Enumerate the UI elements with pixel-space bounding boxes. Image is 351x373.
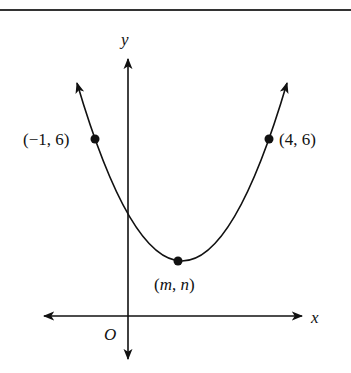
vertex-label-m: m <box>160 275 172 294</box>
parabola-curve <box>77 83 287 261</box>
vertex-label-sep: , <box>172 275 181 294</box>
point-right-label: (4, 6) <box>279 130 316 149</box>
vertex-label: (m, n) <box>154 275 195 294</box>
parabola-diagram: y x O (−1, 6) (4, 6) (m, n) <box>0 0 351 373</box>
origin-label: O <box>104 325 116 344</box>
x-axis-label: x <box>310 308 319 327</box>
point-left <box>91 135 100 144</box>
vertex-label-close: ) <box>189 275 195 294</box>
point-left-label: (−1, 6) <box>23 130 69 149</box>
y-axis-label: y <box>119 30 129 49</box>
point-vertex <box>174 257 183 266</box>
point-right <box>265 135 274 144</box>
vertex-label-n: n <box>180 275 189 294</box>
